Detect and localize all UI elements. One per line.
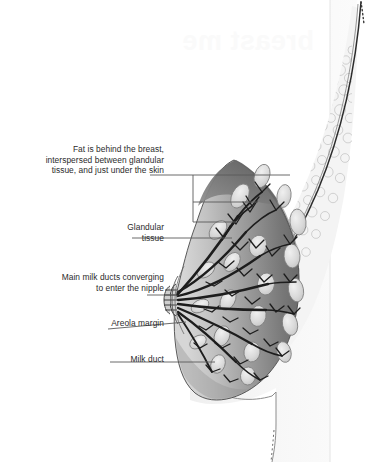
label-glandular-tissue: Glandular tissue xyxy=(14,222,164,243)
label-milk-duct: Milk duct xyxy=(14,354,164,365)
figure-canvas: breast me xyxy=(0,0,369,462)
label-areola-margin: Areola margin xyxy=(14,318,164,329)
label-fat: Fat is behind the breast, interspersed b… xyxy=(4,144,164,176)
label-main-milk-ducts: Main milk ducts converging to enter the … xyxy=(4,272,164,293)
